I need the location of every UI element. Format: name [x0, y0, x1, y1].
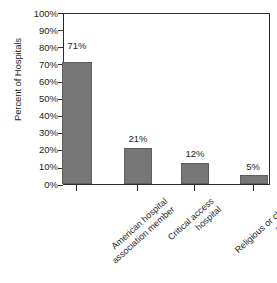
x-tick-mark-3: [194, 185, 195, 191]
y-tick-label-10: 10%: [24, 162, 58, 172]
x-tick-mark-4: [253, 185, 254, 191]
bar-value-label-4: 5%: [234, 162, 272, 172]
bar-value-label-3: 12%: [176, 149, 214, 159]
bar-value-label-1: 71%: [58, 41, 96, 51]
y-tick-label-90: 90%: [24, 26, 58, 36]
y-tick-label-60: 60%: [24, 77, 58, 87]
y-tick-label-30: 30%: [24, 128, 58, 138]
y-tick-label-100: 100%: [24, 9, 58, 19]
bar-critical-access-hospital: [124, 148, 152, 184]
y-tick-label-80: 80%: [24, 43, 58, 53]
bar-chart: Percent of Hospitals 100% 90% 80% 70% 60…: [0, 0, 277, 283]
x-tick-mark-2: [137, 185, 138, 191]
plot-area: [63, 13, 270, 185]
y-tick-label-20: 20%: [24, 145, 58, 155]
y-tick-label-70: 70%: [24, 60, 58, 70]
y-axis-tick-labels: 100% 90% 80% 70% 60% 50% 40% 30% 20% 10%…: [20, 0, 58, 283]
y-tick-mark-0: [58, 185, 63, 186]
x-category-label-2: Critical access hospital: [166, 196, 223, 250]
x-tick-mark-1: [76, 185, 77, 191]
y-tick-label-0: 0%: [24, 180, 58, 190]
x-category-label-3: Religious or church affiliated: [233, 196, 277, 263]
x-category-label-1: American hospital association member: [103, 196, 177, 266]
y-tick-label-50: 50%: [24, 94, 58, 104]
y-tick-label-40: 40%: [24, 111, 58, 121]
bar-value-label-2: 21%: [119, 134, 157, 144]
bar-teaching-hospital: [240, 175, 268, 184]
bar-american-hospital-association-member: [62, 62, 92, 184]
bar-religious-or-church-affiliated: [181, 163, 209, 184]
